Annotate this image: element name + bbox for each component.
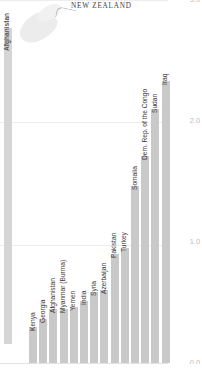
plot-area: Afghanistan KenyaGeorgiaAfghanistanMyanm… (0, 0, 168, 364)
bar-label-pakistan: Pakistan (110, 233, 117, 258)
figure-crop: NEW ZEALAND Afghanistan KenyaGeorgiaAfgh… (0, 0, 202, 383)
bar-label-india: India (80, 291, 87, 305)
bar-label-somalia: Somalia (131, 167, 138, 191)
bar-label-partial-afghanistan: Afghanistan (3, 13, 10, 51)
bar-label-georgia: Georgia (39, 300, 46, 323)
bar-azerbaijan[interactable] (100, 290, 108, 363)
bar-label-azerbaijan: Azerbaijan (100, 263, 107, 294)
y-axis-title: Millions of People, end of 2011 (201, 188, 202, 324)
bar-label-syria: Syria (90, 281, 97, 296)
bar-somalia[interactable] (131, 186, 139, 363)
bar-label-myanmar-burma: Myanmar (Burma) (59, 259, 66, 312)
y-tick-2-0: 2.0 (190, 116, 200, 125)
bar-afghanistan[interactable] (49, 309, 57, 363)
y-tick-3-0: 3.0 (190, 0, 200, 4)
bar-label-kenya: Kenya (29, 312, 36, 331)
gridline-3 (0, 0, 168, 1)
bar-label-sudan: Sudan (151, 94, 158, 113)
bar-india[interactable] (80, 301, 88, 363)
caption-band: ) Internally Displaced Persons (0, 364, 202, 383)
bar-partial-afghanistan[interactable] (4, 28, 12, 344)
bar-label-dem-rep-of-the-congo: Dem. Rep. of the Congo (141, 89, 148, 160)
bar-syria[interactable] (90, 292, 98, 363)
bar-label-afghanistan: Afghanistan (49, 278, 56, 313)
bar-georgia[interactable] (39, 319, 47, 363)
bar-label-yemen: Yemen (69, 291, 76, 311)
bar-sudan[interactable] (151, 109, 159, 363)
bar-turkey[interactable] (121, 248, 129, 363)
bar-myanmar-burma[interactable] (60, 309, 68, 363)
bar-label-iraq: Iraq (161, 74, 168, 85)
bar-pakistan[interactable] (111, 254, 119, 363)
bar-label-turkey: Turkey (120, 232, 127, 252)
bar-yemen[interactable] (70, 307, 78, 363)
y-tick-1-0: 1.0 (190, 237, 200, 246)
bar-kenya[interactable] (29, 327, 37, 363)
bar-dem-rep-of-the-congo[interactable] (141, 156, 149, 363)
bar-iraq[interactable] (162, 81, 170, 363)
